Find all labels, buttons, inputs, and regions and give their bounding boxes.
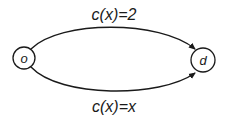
node-d-label: d xyxy=(199,53,207,68)
node-o: o xyxy=(13,47,35,69)
node-d: d xyxy=(191,48,215,72)
network-diagram: o d c(x)=2 c(x)=x xyxy=(0,0,229,122)
edge-bottom-label: c(x)=x xyxy=(92,98,137,115)
node-o-label: o xyxy=(20,51,27,66)
edge-bottom-arrow xyxy=(31,67,195,91)
edge-top-arrow xyxy=(31,27,195,49)
edge-top-label: c(x)=2 xyxy=(92,6,137,23)
